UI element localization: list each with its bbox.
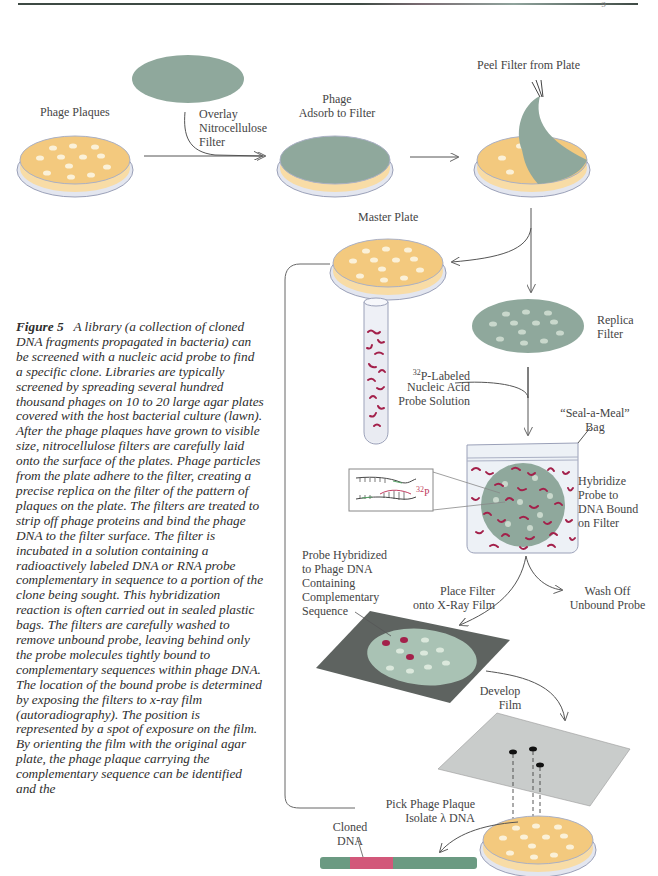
replica-filter bbox=[472, 299, 584, 353]
figure-caption: Figure 5 A library (a collection of clon… bbox=[16, 320, 264, 797]
label-on-filter: on Filter bbox=[578, 516, 619, 530]
label-seal-a-meal: “Seal-a-Meal” bbox=[555, 406, 635, 420]
label-develop: Develop bbox=[470, 684, 530, 698]
label-inset-32p: 32P bbox=[416, 483, 430, 500]
label-isolate-lambda-dna: Isolate λ DNA bbox=[380, 811, 475, 825]
label-film: Film bbox=[480, 698, 540, 712]
label-bag: Bag bbox=[555, 420, 635, 434]
nitrocellulose-filter bbox=[132, 55, 244, 103]
label-dna: DNA bbox=[320, 834, 380, 848]
seal-a-meal-bag bbox=[467, 428, 590, 553]
caption-text: A library (a collection of cloned DNA fr… bbox=[16, 319, 264, 796]
label-phage-plaques: Phage Plaques bbox=[40, 105, 110, 119]
label-nucleic-acid: Nucleic Acid bbox=[400, 380, 470, 394]
label-pick-phage-plaque: Pick Phage Plaque bbox=[380, 797, 475, 811]
label-place-filter: Place Filter bbox=[400, 584, 495, 598]
label-onto-xray-film: onto X-Ray Film bbox=[400, 598, 495, 612]
label-replica-filter: Filter bbox=[597, 327, 623, 341]
tweezers-icon bbox=[532, 80, 543, 97]
label-master-plate: Master Plate bbox=[358, 210, 418, 224]
petri-dish-phage-plaques bbox=[17, 136, 133, 197]
label-peel-filter: Peel Filter from Plate bbox=[477, 58, 580, 72]
label-sequence: Sequence bbox=[302, 604, 348, 618]
label-replica: Replica bbox=[597, 313, 634, 327]
label-nitrocellulose: Nitrocellulose bbox=[199, 121, 267, 135]
master-plate bbox=[330, 239, 446, 300]
label-overlay: Overlay bbox=[199, 107, 238, 121]
label-filter: Filter bbox=[199, 135, 225, 149]
label-adsorb-to-filter: Adsorb to Filter bbox=[292, 106, 382, 120]
label-probe-solution: Probe Solution bbox=[390, 394, 470, 408]
figure-label: Figure 5 bbox=[16, 319, 64, 334]
label-dna-bound: DNA Bound bbox=[578, 502, 638, 516]
label-hybridize: Hybridize bbox=[578, 474, 626, 488]
label-unbound-probe: Unbound Probe bbox=[560, 598, 655, 612]
label-probe-hybridized: Probe Hybridized bbox=[302, 548, 387, 562]
probe-tube bbox=[364, 298, 388, 444]
label-phage: Phage bbox=[302, 92, 372, 106]
petri-dish-peel-filter bbox=[474, 96, 590, 197]
label-to-phage-dna: to Phage DNA bbox=[302, 562, 373, 576]
label-probe-to: Probe to bbox=[578, 488, 618, 502]
label-containing: Containing bbox=[302, 576, 355, 590]
label-wash-off: Wash Off bbox=[560, 584, 655, 598]
petri-dish-with-filter bbox=[277, 136, 393, 197]
label-cloned: Cloned bbox=[320, 820, 380, 834]
label-complementary: Complementary bbox=[302, 590, 379, 604]
